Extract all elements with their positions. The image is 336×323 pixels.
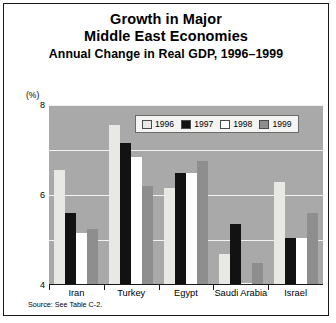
x-axis-category-labels: IranTurkeyEgyptSaudi ArabiaIsrael: [49, 288, 323, 298]
page-title-line-1: Growth in Major: [4, 11, 328, 28]
legend-item-1998[interactable]: 1998: [220, 119, 252, 129]
bar-turkey-1999[interactable]: [142, 186, 153, 285]
x-axis-line: [49, 284, 323, 286]
bar-israel-1998[interactable]: [296, 238, 307, 285]
source-note: Source: See Table C-2.: [28, 300, 102, 309]
legend-item-1996[interactable]: 1996: [142, 119, 174, 129]
bar-iran-1997[interactable]: [65, 213, 76, 285]
legend-item-1997[interactable]: 1997: [181, 119, 213, 129]
bar-israel-1996[interactable]: [274, 182, 285, 286]
bar-egypt-1999[interactable]: [197, 161, 208, 285]
gridline-0: 0: [49, 285, 323, 286]
legend-label: 1996: [155, 119, 174, 129]
bar-turkey-1998[interactable]: [131, 157, 142, 285]
bar-egypt-1998[interactable]: [186, 173, 197, 286]
y-axis-tick-label: 4: [40, 280, 45, 290]
x-axis-label-turkey: Turkey: [104, 288, 159, 298]
bar-saudi-arabia-1997[interactable]: [230, 224, 241, 285]
x-axis-label-israel: Israel: [268, 288, 323, 298]
bar-saudi-arabia-1996[interactable]: [219, 254, 230, 286]
bar-turkey-1997[interactable]: [120, 143, 131, 285]
page-title-line-2: Middle East Economies: [4, 28, 328, 45]
legend-swatch-icon: [142, 120, 152, 129]
bar-saudi-arabia-1999[interactable]: [252, 263, 263, 286]
x-axis-label-egypt: Egypt: [159, 288, 214, 298]
y-axis-tick-label: 6: [40, 190, 45, 200]
legend-label: 1997: [194, 119, 213, 129]
chart-title-block: Growth in Major Middle East Economies An…: [4, 11, 328, 62]
legend-swatch-icon: [220, 120, 230, 129]
page-subtitle: Annual Change in Real GDP, 1996–1999: [4, 46, 328, 62]
y-axis-unit-label: (%): [26, 90, 39, 100]
legend-item-1999[interactable]: 1999: [259, 119, 291, 129]
y-axis-tick-label: 8: [40, 100, 45, 110]
legend-swatch-icon: [181, 120, 191, 129]
bar-turkey-1996[interactable]: [109, 125, 120, 285]
bar-egypt-1997[interactable]: [175, 173, 186, 286]
legend-swatch-icon: [259, 120, 269, 129]
x-axis-label-saudi-arabia: Saudi Arabia: [213, 288, 268, 298]
chart-frame: Growth in Major Middle East Economies An…: [3, 3, 329, 316]
x-axis-label-iran: Iran: [49, 288, 104, 298]
bar-iran-1996[interactable]: [54, 170, 65, 285]
bar-iran-1999[interactable]: [87, 229, 98, 285]
legend-label: 1998: [233, 119, 252, 129]
bar-israel-1999[interactable]: [307, 213, 318, 285]
bar-iran-1998[interactable]: [76, 233, 87, 285]
chart-legend: 1996199719981999: [135, 115, 299, 133]
bar-group: [49, 105, 104, 285]
legend-label: 1999: [272, 119, 291, 129]
bar-egypt-1996[interactable]: [164, 188, 175, 285]
bar-israel-1997[interactable]: [285, 238, 296, 285]
